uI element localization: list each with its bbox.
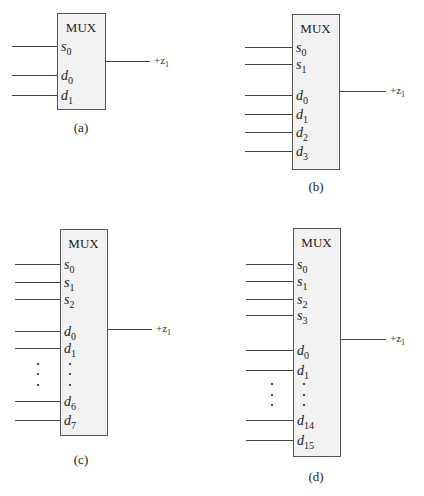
panel-caption: (c): [74, 452, 88, 467]
ellipsis-dot: [69, 363, 71, 365]
ellipsis-dot: [69, 384, 71, 386]
mux-title: MUX: [300, 21, 331, 36]
mux-title: MUX: [68, 236, 99, 251]
mux-title: MUX: [301, 235, 332, 250]
ellipsis-dot: [37, 373, 39, 375]
ellipsis-dot: [69, 373, 71, 375]
output-label: +z1: [390, 84, 405, 99]
mux-title: MUX: [66, 20, 97, 35]
ellipsis-dot: [303, 394, 305, 396]
ellipsis-dot: [303, 404, 305, 406]
output-label: +z1: [390, 332, 405, 347]
panel-caption: (a): [74, 120, 88, 135]
output-label: +z1: [154, 54, 169, 69]
ellipsis-dot: [271, 404, 273, 406]
mux-panel-b: MUXs0s1d0d1d2d3+z1(b): [245, 15, 405, 195]
ellipsis-dot: [303, 383, 305, 385]
mux-panel-c: MUXs0s1s2d0d1d6d7+z1(c): [15, 230, 171, 468]
mux-panel-d: MUXs0s1s2s3d0d1d14d15+z1(d): [246, 229, 405, 485]
ellipsis-dot: [37, 384, 39, 386]
mux-panel-a: MUXs0d0d1+z1(a): [12, 14, 169, 136]
ellipsis-dot: [271, 394, 273, 396]
ellipsis-dot: [271, 383, 273, 385]
output-label: +z1: [156, 322, 171, 337]
panel-caption: (d): [308, 469, 323, 484]
ellipsis-dot: [37, 363, 39, 365]
mux-diagram: MUXs0d0d1+z1(a)MUXs0s1d0d1d2d3+z1(b)MUXs…: [0, 0, 424, 496]
panel-caption: (b): [308, 179, 323, 194]
